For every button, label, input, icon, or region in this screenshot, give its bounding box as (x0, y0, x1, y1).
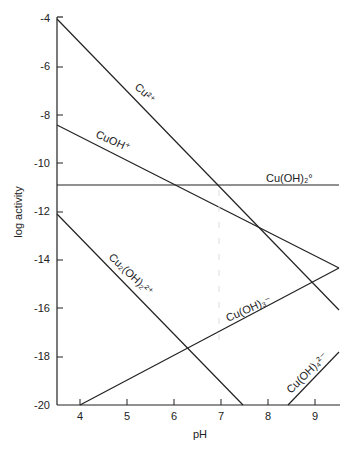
svg-text:-6: -6 (40, 60, 50, 72)
y-ticks: -4 -6 -8 -10 -12 -14 -16 -18 -20 (34, 12, 63, 411)
x-axis-label: pH (193, 428, 207, 440)
label-cuoh: CuOH⁺ (94, 128, 132, 154)
svg-text:-4: -4 (40, 12, 50, 24)
svg-text:-10: -10 (34, 157, 50, 169)
x-ticks: 4 5 6 7 8 9 (77, 399, 318, 422)
label-cuoh4: Cu(OH)₄²⁻ (284, 350, 329, 395)
series-cu2oh2 (57, 214, 243, 405)
chart: -4 -6 -8 -10 -12 -14 -16 -18 -20 4 5 6 7… (0, 0, 353, 449)
svg-text:-18: -18 (34, 350, 50, 362)
svg-text:9: 9 (312, 410, 318, 422)
svg-text:7: 7 (218, 410, 224, 422)
series-cuoh (57, 125, 339, 268)
y-axis-label: log activity (12, 186, 24, 238)
svg-text:-16: -16 (34, 302, 50, 314)
svg-text:4: 4 (77, 410, 83, 422)
svg-text:-12: -12 (34, 205, 50, 217)
label-cuoh3: Cu(OH)₃⁻ (224, 293, 273, 324)
svg-text:5: 5 (124, 410, 130, 422)
label-cuoh2: Cu(OH)₂° (266, 172, 313, 184)
svg-text:-14: -14 (34, 253, 50, 265)
svg-text:6: 6 (171, 410, 177, 422)
svg-text:8: 8 (265, 410, 271, 422)
svg-text:-8: -8 (40, 109, 50, 121)
svg-text:-20: -20 (34, 399, 50, 411)
series-cu2 (57, 19, 339, 310)
